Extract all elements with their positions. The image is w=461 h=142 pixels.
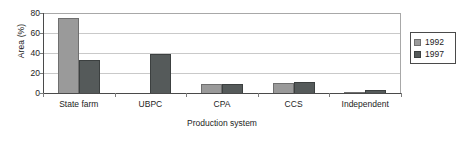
bar-group	[201, 13, 243, 94]
plot-area	[43, 13, 401, 94]
y-axis-tick-labels: 80 60 40 20 0	[18, 0, 40, 142]
y-tick-label: 80	[20, 9, 40, 18]
x-tick-label-independent: Independent	[320, 99, 410, 109]
x-tick-mark	[401, 93, 402, 97]
y-tick-label: 20	[20, 69, 40, 78]
x-tick-mark	[258, 93, 259, 97]
bar-1997-state-farm	[79, 60, 100, 94]
y-tick-label: 40	[20, 49, 40, 58]
legend-item-1992: 1992	[414, 36, 452, 48]
x-tick-mark	[115, 93, 116, 97]
x-tick-mark	[329, 93, 330, 97]
bar-1997-ubpc	[150, 54, 171, 95]
bar-group	[273, 13, 315, 94]
legend-swatch-icon	[414, 51, 421, 58]
legend-label: 1992	[425, 38, 444, 47]
bar-group	[58, 13, 100, 94]
y-tick-label: 0	[20, 89, 40, 98]
y-axis-line	[43, 13, 44, 94]
legend-item-1997: 1997	[414, 48, 452, 60]
x-axis-line	[43, 93, 401, 94]
bar-1992-state-farm	[58, 18, 79, 94]
bar-group	[344, 13, 386, 94]
legend-swatch-icon	[414, 39, 421, 46]
chart-legend: 1992 1997	[410, 32, 456, 64]
y-tick-label: 60	[20, 29, 40, 38]
legend-label: 1997	[425, 50, 444, 59]
bar-group	[129, 13, 171, 94]
chart-screenshot: Area (%) 80 60 40 20 0 State farmUBPCCPA…	[0, 0, 461, 142]
x-tick-mark	[186, 93, 187, 97]
x-axis-title: Production system	[43, 118, 401, 128]
x-tick-mark	[43, 93, 44, 97]
